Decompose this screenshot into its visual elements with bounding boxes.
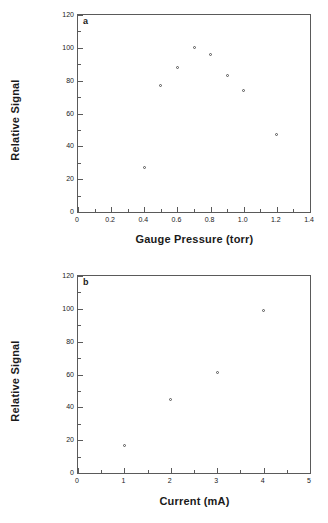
x-axis-major-tick [217, 468, 218, 473]
y-axis-minor-tick [78, 130, 81, 131]
x-axis-title-b: Current (mA) [77, 495, 312, 507]
y-axis-tick-label: 0 [70, 469, 74, 476]
y-axis-tick-label: 80 [66, 76, 74, 83]
y-axis-tick-label: 120 [62, 272, 74, 279]
x-axis-major-tick [111, 207, 112, 212]
x-axis-major-tick [177, 207, 178, 212]
y-axis-title-b: Relative Signal [0, 273, 30, 488]
y-axis-major-tick [78, 407, 83, 408]
x-axis-tick-label: 0.4 [138, 216, 148, 223]
data-point [275, 133, 278, 136]
y-axis-major-tick [78, 309, 83, 310]
x-axis-minor-tick [287, 470, 288, 473]
x-axis-tick-label: 5 [307, 477, 311, 484]
y-axis-minor-tick [78, 358, 81, 359]
data-point [193, 46, 196, 49]
y-axis-title-a: Relative Signal [0, 12, 30, 227]
y-axis-minor-tick [78, 31, 81, 32]
y-axis-tick-label: 20 [66, 175, 74, 182]
y-axis-tick-label: 40 [66, 403, 74, 410]
x-axis-major-tick [124, 468, 125, 473]
x-axis-tick-label: 1.2 [271, 216, 281, 223]
y-axis-minor-tick [78, 64, 81, 65]
y-axis-minor-tick [78, 163, 81, 164]
data-point [262, 309, 265, 312]
x-axis-minor-tick [95, 209, 96, 212]
plot-area-b: b [77, 275, 311, 474]
y-axis-major-tick [78, 342, 83, 343]
x-axis-major-tick [211, 207, 212, 212]
data-point [176, 66, 179, 69]
data-point [143, 166, 146, 169]
x-axis-major-tick [144, 207, 145, 212]
y-axis-tick-label: 100 [62, 43, 74, 50]
y-axis-major-tick [78, 114, 83, 115]
y-axis-major-tick [78, 440, 83, 441]
data-point [216, 371, 219, 374]
x-axis-minor-tick [293, 209, 294, 212]
x-axis-major-tick [171, 468, 172, 473]
x-axis-minor-tick [240, 470, 241, 473]
y-axis-tick-label: 0 [70, 208, 74, 215]
data-point [242, 89, 245, 92]
data-point [169, 398, 172, 401]
y-axis-minor-tick [78, 196, 81, 197]
y-axis-tick-label: 20 [66, 436, 74, 443]
y-axis-minor-tick [78, 97, 81, 98]
x-axis-tick-labels-a: 00.20.40.60.81.01.21.4 [77, 0, 311, 1]
x-axis-minor-tick [101, 470, 102, 473]
x-axis-tick-label: 1.4 [304, 216, 314, 223]
plot-area-a: a [77, 14, 311, 213]
y-axis-tick-labels-a: 020406080100120 [52, 14, 74, 213]
y-axis-major-tick [78, 179, 83, 180]
y-axis-minor-tick [78, 424, 81, 425]
y-axis-minor-tick [78, 391, 81, 392]
x-axis-tick-label: 1.0 [238, 216, 248, 223]
x-axis-title-a: Gauge Pressure (torr) [77, 233, 312, 245]
x-axis-minor-tick [148, 470, 149, 473]
data-point [226, 74, 229, 77]
x-axis-major-tick [244, 207, 245, 212]
figure-panel-b: Relative Signal 020406080100120 b 012345… [0, 261, 328, 523]
y-axis-major-tick [78, 375, 83, 376]
y-axis-major-tick [78, 81, 83, 82]
x-axis-major-tick [277, 207, 278, 212]
x-axis-major-tick [264, 468, 265, 473]
y-axis-tick-labels-b: 020406080100120 [52, 275, 74, 474]
x-axis-tick-label: 0 [75, 216, 79, 223]
x-axis-minor-tick [194, 470, 195, 473]
x-axis-tick-label: 3 [214, 477, 218, 484]
x-axis-major-tick [310, 207, 311, 212]
x-axis-minor-tick [227, 209, 228, 212]
y-axis-minor-tick [78, 457, 81, 458]
y-axis-major-tick [78, 473, 83, 474]
x-axis-tick-label: 0.6 [172, 216, 182, 223]
x-axis-tick-label: 2 [168, 477, 172, 484]
x-axis-minor-tick [128, 209, 129, 212]
y-axis-tick-label: 60 [66, 370, 74, 377]
y-axis-tick-label: 100 [62, 304, 74, 311]
x-axis-tick-label: 0.8 [205, 216, 215, 223]
x-axis-tick-label: 4 [261, 477, 265, 484]
x-axis-minor-tick [161, 209, 162, 212]
x-axis-major-tick [310, 468, 311, 473]
y-axis-major-tick [78, 146, 83, 147]
data-point [209, 53, 212, 56]
figure-panel-a: Relative Signal 020406080100120 a 00.20.… [0, 0, 328, 262]
y-axis-tick-label: 120 [62, 11, 74, 18]
x-axis-minor-tick [194, 209, 195, 212]
y-axis-tick-label: 80 [66, 337, 74, 344]
y-axis-tick-label: 40 [66, 142, 74, 149]
x-axis-tick-label: 0 [75, 477, 79, 484]
x-axis-tick-labels-b: 012345 [77, 261, 311, 262]
y-axis-minor-tick [78, 325, 81, 326]
y-axis-minor-tick [78, 292, 81, 293]
x-axis-tick-label: 1 [121, 477, 125, 484]
y-axis-major-tick [78, 15, 83, 16]
y-axis-major-tick [78, 212, 83, 213]
y-axis-major-tick [78, 276, 83, 277]
data-point [159, 84, 162, 87]
y-axis-tick-label: 60 [66, 109, 74, 116]
x-axis-tick-label: 0.2 [105, 216, 115, 223]
panel-label-b: b [83, 278, 89, 287]
